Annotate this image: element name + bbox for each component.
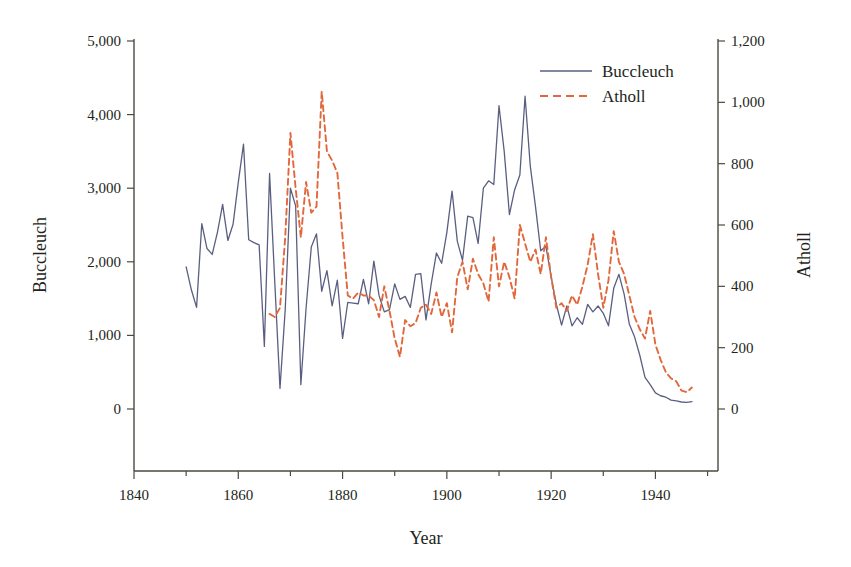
right-axis-tick-label: 400	[731, 278, 754, 294]
left-axis-tick-label: 5,000	[87, 33, 121, 49]
bottom-axis-tick-label: 1900	[432, 487, 462, 503]
chart-figure: 01,0002,0003,0004,0005,000 0200400600800…	[0, 0, 851, 567]
right-axis-title: Atholl	[794, 232, 814, 278]
legend-label-buccleuch: Buccleuch	[602, 62, 674, 81]
left-axis-title: Buccleuch	[30, 217, 50, 293]
bottom-axis-tick-label: 1940	[640, 487, 670, 503]
left-axis-tick-label: 0	[114, 401, 122, 417]
line-chart: 01,0002,0003,0004,0005,000 0200400600800…	[0, 0, 851, 567]
right-axis-tick-label: 800	[731, 156, 754, 172]
bottom-axis-title: Year	[409, 528, 442, 548]
left-axis-tick-label: 4,000	[87, 107, 121, 123]
right-axis-tick-label: 1,000	[731, 94, 765, 110]
right-axis-tick-label: 600	[731, 217, 754, 233]
left-axis-tick-label: 1,000	[87, 327, 121, 343]
bottom-axis-tick-label: 1920	[536, 487, 566, 503]
bottom-axis-tick-label: 1880	[328, 487, 358, 503]
legend-label-atholl: Atholl	[602, 87, 646, 106]
chart-background	[0, 0, 851, 567]
right-axis-tick-label: 0	[731, 401, 739, 417]
right-axis-tick-label: 1,200	[731, 33, 765, 49]
bottom-axis-tick-label: 1840	[119, 487, 149, 503]
right-axis-tick-label: 200	[731, 340, 754, 356]
left-axis-tick-label: 3,000	[87, 180, 121, 196]
left-axis-tick-label: 2,000	[87, 254, 121, 270]
bottom-axis-tick-label: 1860	[223, 487, 253, 503]
